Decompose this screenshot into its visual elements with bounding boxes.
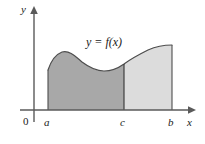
x-tick-label-c: c [120, 116, 125, 128]
figure-canvas: 0 a c b x y y = f(x) [0, 0, 205, 144]
shaded-region-a-to-c [48, 52, 124, 110]
curve-equation-label: y = f(x) [85, 35, 122, 49]
y-axis-label: y [20, 3, 26, 15]
y-axis-arrow-icon [30, 6, 38, 14]
x-axis-arrow-icon [188, 106, 196, 114]
shaded-region-c-to-b [124, 45, 172, 110]
x-tick-label-b: b [168, 116, 174, 128]
x-axis-label: x [186, 116, 192, 128]
x-tick-label-a: a [44, 116, 50, 128]
calculus-area-figure: 0 a c b x y y = f(x) [0, 0, 205, 144]
origin-label: 0 [23, 115, 29, 127]
